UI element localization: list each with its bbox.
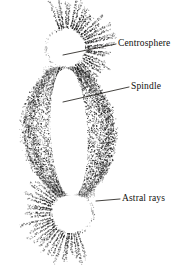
label-astral-rays: Astral rays [122, 193, 165, 203]
label-spindle: Spindle [131, 81, 161, 91]
mitosis-figure: CentrosphereSpindleAstral rays [0, 0, 192, 268]
mitosis-illustration: CentrosphereSpindleAstral rays [0, 0, 192, 268]
label-centrosphere: Centrosphere [118, 38, 170, 48]
